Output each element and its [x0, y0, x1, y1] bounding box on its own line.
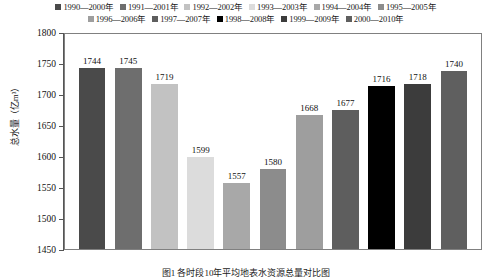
- bar-value-label: 1599: [192, 145, 210, 156]
- bar[interactable]: 1668: [296, 115, 323, 249]
- legend-row-1: 1990—2000年1991—2001年1992—2002年1993—2003年…: [0, 1, 492, 13]
- bar-slot: 1719: [146, 34, 182, 249]
- legend-item[interactable]: 1997—2007年: [152, 14, 211, 24]
- legend-item[interactable]: 1996—2006年: [88, 14, 147, 24]
- bar[interactable]: 1719: [151, 84, 178, 249]
- legend-item-label: 1998—2008年: [225, 14, 276, 24]
- chart-figure: 1990—2000年1991—2001年1992—2002年1993—2003年…: [0, 0, 492, 277]
- y-axis-tick-label: 1550: [0, 183, 56, 193]
- y-axis-tick-label: 1500: [0, 214, 56, 224]
- bar-slot: 1557: [219, 34, 255, 249]
- bar-value-label: 1580: [264, 157, 282, 168]
- bar[interactable]: 1557: [223, 183, 250, 249]
- bar-value-label: 1557: [228, 171, 246, 182]
- bar-slot: 1677: [327, 34, 363, 249]
- bar[interactable]: 1745: [115, 68, 142, 249]
- bar[interactable]: 1716: [368, 86, 395, 249]
- bar-slot: 1745: [110, 34, 146, 249]
- bar[interactable]: 1744: [79, 68, 106, 249]
- bar-value-label: 1744: [83, 56, 101, 67]
- legend-item[interactable]: 1991—2001年: [120, 2, 179, 12]
- legend-item[interactable]: 1995—2005年: [378, 2, 437, 12]
- bar-value-label: 1745: [119, 56, 137, 67]
- bar-value-label: 1716: [373, 74, 391, 85]
- y-axis-tick-label: 1750: [0, 59, 56, 69]
- legend-item-label: 1995—2005年: [386, 2, 437, 12]
- bar-slot: 1718: [400, 34, 436, 249]
- bar-value-label: 1677: [336, 98, 354, 109]
- legend-item[interactable]: 1992—2002年: [184, 2, 243, 12]
- legend-swatch-icon: [55, 4, 61, 10]
- legend-item-label: 1993—2003年: [257, 2, 308, 12]
- bar[interactable]: 1718: [404, 84, 431, 249]
- legend-item-label: 1994—2004年: [322, 2, 373, 12]
- bar-slot: 1716: [364, 34, 400, 249]
- bar-slot: 1580: [255, 34, 291, 249]
- legend-item[interactable]: 1994—2004年: [314, 2, 373, 12]
- y-axis-tick-label: 1800: [0, 28, 56, 38]
- bar-value-label: 1718: [409, 72, 427, 83]
- plot-area-frame: 1744174517191599155715801668167717161718…: [64, 33, 482, 250]
- legend-item-label: 2000—2010年: [354, 14, 405, 24]
- legend-item[interactable]: 1999—2009年: [281, 14, 340, 24]
- legend-row-2: 1996—2006年1997—2007年1998—2008年1999—2009年…: [0, 13, 492, 25]
- legend-swatch-icon: [249, 4, 255, 10]
- legend-swatch-icon: [281, 16, 287, 22]
- legend-item-label: 1992—2002年: [192, 2, 243, 12]
- legend-item[interactable]: 1998—2008年: [217, 14, 276, 24]
- legend-swatch-icon: [314, 4, 320, 10]
- bar-slot: 1668: [291, 34, 327, 249]
- bar[interactable]: 1599: [187, 157, 214, 249]
- bar-value-label: 1740: [445, 59, 463, 70]
- legend-swatch-icon: [152, 16, 158, 22]
- legend-swatch-icon: [217, 16, 223, 22]
- bar[interactable]: 1740: [441, 71, 468, 249]
- bar-slot: 1744: [74, 34, 110, 249]
- chart-legend: 1990—2000年1991—2001年1992—2002年1993—2003年…: [0, 0, 492, 25]
- legend-swatch-icon: [378, 4, 384, 10]
- legend-swatch-icon: [346, 16, 352, 22]
- legend-item[interactable]: 2000—2010年: [346, 14, 405, 24]
- legend-swatch-icon: [184, 4, 190, 10]
- legend-item-label: 1991—2001年: [128, 2, 179, 12]
- legend-item[interactable]: 1990—2000年: [55, 2, 114, 12]
- bar[interactable]: 1677: [332, 110, 359, 249]
- bar-slot: 1599: [183, 34, 219, 249]
- legend-item-label: 1997—2007年: [160, 14, 211, 24]
- bar-value-label: 1719: [155, 72, 173, 83]
- bar-slot: 1740: [436, 34, 472, 249]
- legend-item-label: 1996—2006年: [96, 14, 147, 24]
- legend-item-label: 1990—2000年: [63, 2, 114, 12]
- y-axis-title: 总水量（亿m³）: [8, 75, 21, 155]
- legend-item[interactable]: 1993—2003年: [249, 2, 308, 12]
- figure-caption: 图1 各时段10年平均地表水资源总量对比图: [0, 266, 492, 277]
- legend-swatch-icon: [120, 4, 126, 10]
- legend-item-label: 1999—2009年: [289, 14, 340, 24]
- bar[interactable]: 1580: [260, 169, 287, 249]
- y-axis-tick-label: 1450: [0, 245, 56, 255]
- bar-value-label: 1668: [300, 103, 318, 114]
- legend-swatch-icon: [88, 16, 94, 22]
- plot-area: 1744174517191599155715801668167717161718…: [65, 34, 481, 249]
- y-axis-tick-mark: [59, 250, 64, 251]
- bar-group: 1744174517191599155715801668167717161718…: [65, 34, 481, 249]
